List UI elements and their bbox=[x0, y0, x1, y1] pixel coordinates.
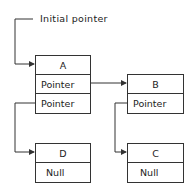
node-d-field-0: Null bbox=[35, 162, 91, 183]
initial-pointer-label: Initial pointer bbox=[40, 13, 108, 24]
node-b-field-0: Pointer bbox=[127, 93, 184, 114]
node-c-name: C bbox=[127, 143, 184, 163]
node-c-field-0: Null bbox=[127, 162, 184, 183]
node-b-name: B bbox=[127, 74, 184, 94]
node-a-name: A bbox=[35, 55, 91, 75]
node-d-name: D bbox=[35, 143, 91, 163]
node-a-field-0: Pointer bbox=[35, 74, 91, 94]
node-a-field-1: Pointer bbox=[35, 93, 91, 114]
